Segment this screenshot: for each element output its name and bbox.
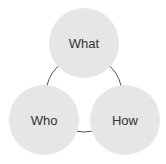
node-how-label: How [112,113,138,128]
node-what-label: What [69,36,99,51]
node-who: Who [9,85,79,155]
node-who-label: Who [31,113,58,128]
node-how: How [90,85,160,155]
node-what: What [49,8,119,78]
